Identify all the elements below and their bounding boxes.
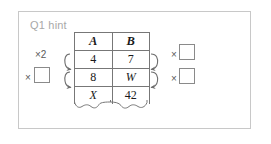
left-answer-box[interactable] bbox=[34, 67, 50, 83]
value-table: A B 4 7 8 W X 42 bbox=[74, 32, 150, 104]
right-arrow-1 bbox=[151, 54, 158, 70]
cell-b-2: W bbox=[112, 69, 150, 87]
table-row: 4 7 bbox=[75, 51, 150, 69]
right-arrow-2 bbox=[151, 72, 158, 88]
left-multiplier-label-2: × bbox=[25, 72, 31, 83]
torn-edge-icon bbox=[74, 100, 148, 110]
table-row: 8 W bbox=[75, 69, 150, 87]
right-answer-box-2[interactable] bbox=[179, 68, 195, 84]
cell-b-1: 7 bbox=[112, 51, 150, 69]
table-header-row: A B bbox=[75, 33, 150, 51]
cell-a-2: 8 bbox=[75, 69, 113, 87]
column-header-b: B bbox=[112, 33, 150, 51]
right-multiplier-label-2: × bbox=[171, 73, 177, 84]
column-header-a: A bbox=[75, 33, 113, 51]
cell-a-1: 4 bbox=[75, 51, 113, 69]
left-arrow-1 bbox=[65, 54, 71, 70]
left-arrow-2 bbox=[65, 72, 71, 88]
right-answer-box-1[interactable] bbox=[179, 44, 195, 60]
left-multiplier-label-1: ×2 bbox=[35, 49, 46, 60]
right-multiplier-label-1: × bbox=[171, 49, 177, 60]
ratio-table-diagram: A B 4 7 8 W X 42 ×2 bbox=[19, 12, 252, 130]
hint-card: Q1 hint A B 4 7 8 W X 42 bbox=[18, 11, 251, 129]
